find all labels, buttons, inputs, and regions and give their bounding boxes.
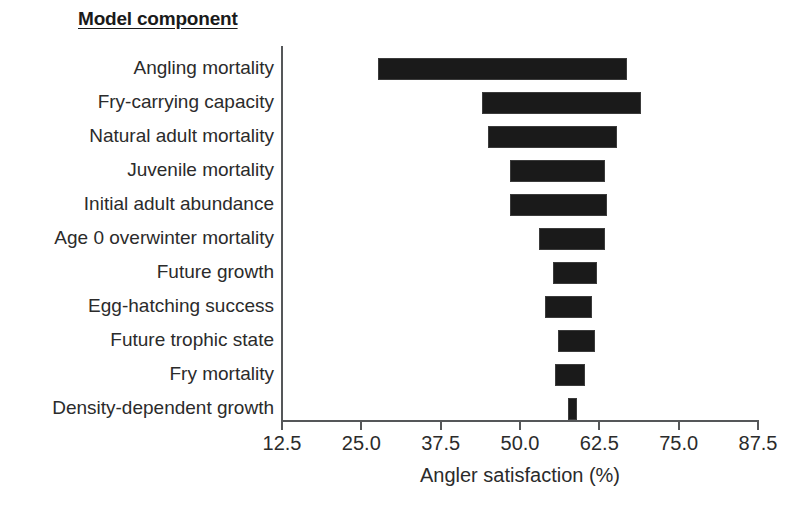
- category-label: Future trophic state: [110, 329, 274, 351]
- x-tick-mark: [440, 422, 442, 430]
- bar: [539, 228, 605, 250]
- x-axis-title: Angler satisfaction (%): [281, 464, 759, 487]
- bar: [555, 364, 585, 386]
- x-tick-mark: [281, 422, 283, 430]
- tornado-chart: Model component Angling mortalityFry-car…: [0, 0, 807, 516]
- category-label: Fry mortality: [170, 363, 275, 385]
- category-label: Density-dependent growth: [52, 397, 274, 419]
- category-label: Age 0 overwinter mortality: [54, 227, 274, 249]
- x-tick-label: 50.0: [501, 432, 540, 455]
- x-tick-label: 12.5: [263, 432, 302, 455]
- x-tick-mark: [519, 422, 521, 430]
- category-label: Initial adult abundance: [84, 193, 274, 215]
- x-tick-label: 75.0: [659, 432, 698, 455]
- bar: [553, 262, 597, 284]
- x-tick-label: 25.0: [342, 432, 381, 455]
- x-tick-mark: [757, 422, 759, 430]
- category-label: Angling mortality: [134, 57, 274, 79]
- bar: [558, 330, 595, 352]
- x-tick-mark: [598, 422, 600, 430]
- x-tick-label: 62.5: [580, 432, 619, 455]
- bar: [545, 296, 593, 318]
- category-label: Natural adult mortality: [89, 125, 274, 147]
- category-label: Fry-carrying capacity: [98, 91, 274, 113]
- category-label: Egg-hatching success: [88, 295, 274, 317]
- bar: [488, 126, 617, 148]
- x-tick-label: 87.5: [739, 432, 778, 455]
- bar: [568, 398, 577, 420]
- category-label: Future growth: [157, 261, 274, 283]
- x-tick-mark: [678, 422, 680, 430]
- x-tick-label: 37.5: [421, 432, 460, 455]
- y-axis-line: [281, 46, 283, 421]
- x-tick-mark: [360, 422, 362, 430]
- bar: [482, 92, 641, 114]
- bar: [510, 194, 607, 216]
- model-component-header: Model component: [78, 8, 238, 30]
- bar: [378, 58, 627, 80]
- bar: [510, 160, 605, 182]
- category-label: Juvenile mortality: [127, 159, 274, 181]
